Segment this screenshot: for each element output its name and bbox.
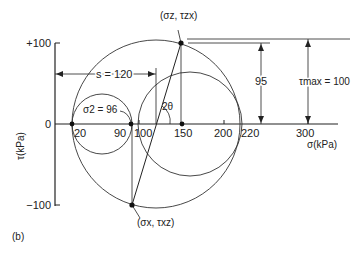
figure-label: (b) [12, 231, 24, 242]
y-axis-label: τ(kPa) [15, 132, 26, 160]
y-tick-minus100: −100 [26, 199, 51, 211]
point-top-label: (σz, τzx) [160, 10, 197, 21]
mohr-circle-diagram: +100 0 −100 20 90 100 150 200 220 300 σ(… [0, 0, 358, 257]
x-tick-100: 100 [134, 127, 152, 139]
x-tick-300: 300 [296, 127, 314, 139]
x-tick-200: 200 [214, 127, 232, 139]
point-bottom-label: (σx, τxz) [137, 217, 174, 228]
y-tick-0: 0 [45, 118, 51, 130]
x-tick-20: 20 [74, 127, 86, 139]
x-axis-label: σ(kPa) [307, 139, 337, 150]
point-sigma-x [129, 202, 134, 207]
x-tick-150: 150 [174, 127, 192, 139]
sigma2-label: σ2 = 96 [83, 104, 118, 115]
point-sigma-z [178, 40, 183, 45]
height-label: 95 [255, 75, 267, 87]
s-label: s = 120 [96, 68, 132, 80]
tau-max-label: τmax = 100 [299, 76, 350, 87]
y-tick-plus100: +100 [26, 37, 51, 49]
x-tick-90: 90 [114, 127, 126, 139]
x-tick-220: 220 [241, 127, 259, 139]
angle-label: 2θ [162, 101, 174, 112]
